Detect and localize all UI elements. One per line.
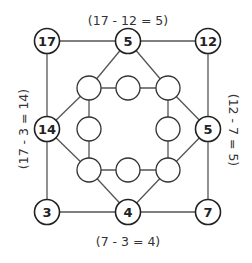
- inner-node-bottom-right: [156, 158, 180, 182]
- inner-node-top-right: [156, 76, 180, 100]
- node-top-middle: 5: [116, 29, 141, 54]
- inner-node-middle-right: [156, 117, 180, 141]
- inner-node-middle-left: [77, 117, 101, 141]
- inner-nodes: [77, 76, 180, 182]
- node-value: 14: [38, 122, 56, 137]
- node-value: 7: [203, 205, 212, 220]
- node-value: 12: [199, 34, 217, 49]
- node-middle-right: 5: [196, 117, 221, 142]
- node-top-right: 12: [196, 29, 221, 54]
- node-value: 4: [123, 205, 132, 220]
- node-value: 5: [123, 34, 132, 49]
- node-bottom-left: 3: [35, 200, 60, 225]
- equation-right: (12 - 7 = 5): [226, 94, 241, 166]
- inner-node-top-left: [77, 76, 101, 100]
- node-top-left: 17: [35, 29, 60, 54]
- node-bottom-right: 7: [196, 200, 221, 225]
- equation-bottom: (7 - 3 = 4): [96, 234, 161, 249]
- outer-edges: [47, 41, 208, 212]
- node-value: 3: [42, 205, 51, 220]
- node-middle-left: 14: [35, 117, 60, 142]
- outer-nodes: 17 5 12 14 5 3 4 7: [35, 29, 221, 225]
- node-value: 17: [38, 34, 56, 49]
- node-bottom-middle: 4: [116, 200, 141, 225]
- diagonal-edges: [47, 41, 208, 212]
- inner-node-bottom-left: [77, 158, 101, 182]
- inner-node-top-middle: [116, 76, 140, 100]
- equation-left: (17 - 3 = 14): [16, 89, 31, 169]
- node-value: 5: [203, 122, 212, 137]
- puzzle-diagram: 17 5 12 14 5 3 4 7 (17 -: [0, 0, 252, 263]
- equation-top: (17 - 12 = 5): [88, 13, 168, 28]
- inner-node-bottom-middle: [116, 158, 140, 182]
